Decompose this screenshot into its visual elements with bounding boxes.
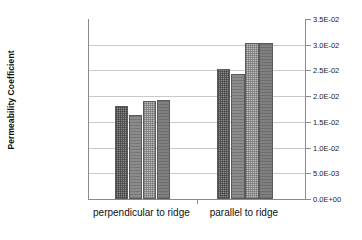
- category-label: parallel to ridge: [174, 207, 314, 218]
- y-axis-title-text: Permeability Coefficient: [6, 50, 16, 149]
- y-axis-tick-label: 0.0E+00: [313, 195, 341, 204]
- bar: [157, 100, 171, 199]
- y-axis-tick-label: 2.0E-02: [313, 92, 339, 101]
- y-axis-tick: [306, 199, 311, 200]
- bar-chart: Permeability Coefficient 0.0E+005.0E-031…: [0, 0, 362, 240]
- y-axis-tick: [306, 173, 311, 174]
- y-axis-tick: [306, 70, 311, 71]
- bar: [245, 43, 259, 199]
- bar: [259, 43, 273, 199]
- y-axis-tick-label: 1.0E-02: [313, 143, 339, 152]
- y-axis-tick-label: 5.0E-03: [313, 169, 339, 178]
- y-axis-tick-label: 3.0E-02: [313, 40, 339, 49]
- plot-area: [88, 19, 306, 199]
- bar: [143, 101, 157, 199]
- y-axis-tick: [306, 45, 311, 46]
- y-axis-tick-label: 1.5E-02: [313, 117, 339, 126]
- y-axis-tick: [306, 148, 311, 149]
- y-axis-tick: [306, 122, 311, 123]
- bar: [115, 106, 129, 199]
- y-axis-tick: [306, 96, 311, 97]
- bar: [231, 74, 245, 199]
- y-axis-tick-label: 3.5E-02: [313, 15, 339, 24]
- category-divider-tick: [197, 199, 198, 204]
- y-axis-tick-label: 2.5E-02: [313, 66, 339, 75]
- bar: [129, 115, 143, 199]
- y-axis-tick: [306, 19, 311, 20]
- bar: [217, 69, 231, 199]
- y-axis-title: Permeability Coefficient: [0, 0, 22, 200]
